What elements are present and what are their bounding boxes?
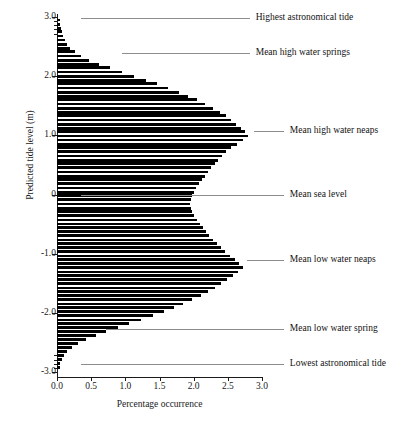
histogram-bar bbox=[57, 55, 81, 58]
datum-leader-line bbox=[81, 364, 284, 365]
histogram-bar bbox=[57, 322, 129, 325]
datum-label: Mean low water spring bbox=[290, 323, 378, 333]
histogram-bar bbox=[57, 87, 168, 90]
histogram-bar bbox=[57, 63, 99, 66]
datum-label: Mean low water neaps bbox=[290, 254, 376, 264]
histogram-bar bbox=[57, 262, 239, 265]
histogram-bar bbox=[57, 171, 208, 174]
histogram-bar bbox=[57, 111, 220, 114]
datum-leader-line bbox=[122, 53, 250, 54]
histogram-bar bbox=[57, 239, 213, 242]
histogram-bar bbox=[57, 310, 164, 313]
histogram-bar bbox=[57, 338, 86, 341]
histogram-bar bbox=[57, 350, 67, 353]
datum-label: Mean sea level bbox=[290, 189, 347, 199]
histogram-bar bbox=[57, 266, 243, 269]
histogram-bar bbox=[57, 319, 141, 322]
y-tick-label: 1.0 bbox=[44, 130, 56, 140]
histogram-bar bbox=[57, 59, 89, 62]
histogram-bar bbox=[57, 19, 60, 22]
histogram-bar bbox=[57, 43, 67, 46]
datum-leader-line bbox=[81, 195, 284, 196]
histogram-bar bbox=[57, 71, 122, 74]
datum-leader-line bbox=[247, 260, 284, 261]
y-tick-label: 2.0 bbox=[44, 71, 56, 81]
y-tick-label: 0 bbox=[51, 190, 56, 200]
histogram-bar bbox=[57, 82, 157, 85]
histogram-bar bbox=[57, 23, 60, 26]
histogram-bar bbox=[57, 346, 72, 349]
histogram-bar bbox=[57, 282, 221, 285]
histogram-bar bbox=[57, 166, 211, 169]
histogram-bar bbox=[57, 210, 192, 213]
histogram-bar bbox=[57, 50, 75, 53]
histogram-bar bbox=[57, 242, 217, 245]
histogram-bar bbox=[57, 274, 233, 277]
histogram-bar bbox=[57, 271, 238, 274]
histogram-bar bbox=[57, 123, 236, 126]
histogram-bar bbox=[57, 146, 231, 149]
histogram-bar bbox=[57, 91, 179, 94]
histogram-bar bbox=[57, 143, 237, 146]
histogram-bar bbox=[57, 30, 62, 33]
histogram-bar bbox=[57, 223, 200, 226]
histogram-bar bbox=[57, 75, 134, 78]
y-axis-title: Predicted tide level (m) bbox=[25, 75, 35, 235]
histogram-bar bbox=[57, 155, 222, 158]
y-tick-label: -1.0 bbox=[41, 249, 56, 259]
histogram-bar bbox=[57, 306, 174, 309]
histogram-bar bbox=[57, 139, 243, 142]
datum-leader-line bbox=[106, 329, 284, 330]
histogram-bar bbox=[57, 294, 201, 297]
histogram-bar bbox=[57, 103, 205, 106]
y-tick-label: 3.0 bbox=[44, 12, 56, 22]
histogram-bar bbox=[57, 354, 64, 357]
histogram-bar bbox=[57, 334, 96, 337]
histogram-bar bbox=[57, 182, 199, 185]
histogram-bar bbox=[57, 159, 218, 162]
x-tick-label: 3.0 bbox=[242, 382, 282, 392]
histogram-bar bbox=[57, 178, 202, 181]
histogram-bar bbox=[57, 35, 63, 38]
histogram-bar bbox=[57, 342, 78, 345]
histogram-bar bbox=[57, 119, 231, 122]
histogram-bar bbox=[57, 27, 61, 30]
histogram-bar bbox=[57, 290, 208, 293]
y-tick-label: -2.0 bbox=[41, 308, 56, 318]
histogram-bar bbox=[57, 358, 62, 361]
datum-label: Mean high water springs bbox=[256, 47, 350, 57]
histogram-bar bbox=[57, 107, 213, 110]
histogram-bar bbox=[57, 198, 191, 201]
datum-leader-line bbox=[254, 131, 284, 132]
histogram-bar bbox=[57, 39, 65, 42]
x-axis-title: Percentage occurrence bbox=[57, 399, 262, 409]
histogram-bar bbox=[57, 175, 205, 178]
histogram-bar bbox=[57, 98, 197, 101]
histogram-bar bbox=[57, 226, 203, 229]
histogram-bar bbox=[57, 258, 235, 261]
histogram-bar bbox=[57, 114, 226, 117]
histogram-bar bbox=[57, 135, 248, 138]
histogram-bar bbox=[57, 246, 221, 249]
histogram-bar bbox=[57, 47, 70, 50]
datum-label: Highest astronomical tide bbox=[256, 12, 354, 22]
histogram-bar bbox=[57, 314, 153, 317]
histogram-bar bbox=[57, 150, 226, 153]
histogram-bar bbox=[57, 130, 245, 133]
histogram-bar bbox=[57, 234, 209, 237]
histogram-bar bbox=[57, 203, 190, 206]
histogram-bar bbox=[57, 366, 60, 369]
histogram-bar bbox=[57, 95, 188, 98]
histogram-bar bbox=[57, 127, 241, 130]
datum-label: Lowest astronomical tide bbox=[290, 358, 386, 368]
tide-level-histogram-chart: 3.02.01.00-1.0-2.0-3.0 0.00.51.01.52.02.… bbox=[0, 0, 395, 433]
histogram-bar bbox=[57, 362, 60, 365]
histogram-bar bbox=[57, 191, 194, 194]
datum-leader-line bbox=[81, 18, 250, 19]
histogram-bar bbox=[57, 330, 106, 333]
histogram-bar bbox=[57, 287, 215, 290]
histogram-bar bbox=[57, 219, 197, 222]
histogram-bar bbox=[57, 303, 183, 306]
histogram-bar bbox=[57, 207, 191, 210]
histogram-bar bbox=[57, 250, 225, 253]
